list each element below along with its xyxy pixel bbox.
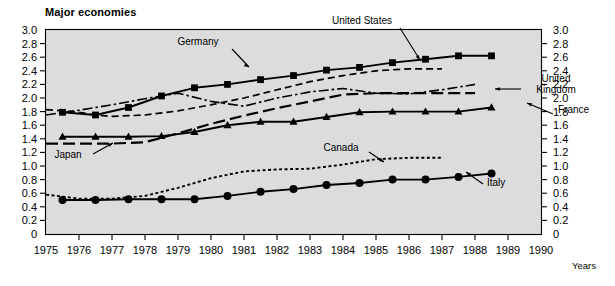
x-tick-label: 1984 <box>331 244 355 256</box>
y-tick-label-left: 2.8 <box>22 38 37 50</box>
y-tick-label-left: 1.8 <box>22 106 37 118</box>
y-tick-label-right: 1.0 <box>553 160 568 172</box>
marker-circle <box>455 173 463 181</box>
annotation-united-kingdom-line2: Kingdom <box>536 84 575 95</box>
y-tick-label-left: 0.2 <box>22 214 37 226</box>
marker-square <box>488 52 495 59</box>
y-tick-label-left: 0 <box>31 228 37 240</box>
marker-circle <box>59 196 67 204</box>
marker-square <box>224 81 231 88</box>
y-tick-label-left: 2.4 <box>22 65 37 77</box>
y-tick-label-left: 0.4 <box>22 201 37 213</box>
annotation-japan: Japan <box>54 149 81 160</box>
marker-circle <box>323 181 331 189</box>
x-tick-label: 1982 <box>265 244 289 256</box>
annotation-france: France <box>558 104 590 115</box>
y-tick-label-right: 0 <box>553 228 559 240</box>
marker-circle <box>158 195 166 203</box>
marker-square <box>290 72 297 79</box>
y-axis-right-labels: 3.02.82.62.42.22.01.81.61.41.21.00.80.60… <box>553 24 568 240</box>
marker-circle <box>191 195 199 203</box>
marker-circle <box>92 196 100 204</box>
y-tick-label-left: 3.0 <box>22 24 37 36</box>
marker-square <box>191 84 198 91</box>
x-tick-label: 1990 <box>529 244 553 256</box>
y-tick-label-right: 2.6 <box>553 51 568 63</box>
marker-circle <box>224 192 232 200</box>
x-tick-label: 1986 <box>397 244 421 256</box>
x-tick-label: 1985 <box>364 244 388 256</box>
marker-square <box>356 64 363 71</box>
y-tick-label-left: 1.6 <box>22 119 37 131</box>
annotation-italy: Italy <box>487 177 505 188</box>
y-tick-label-left: 1.2 <box>22 146 37 158</box>
x-tick-label: 1980 <box>199 244 223 256</box>
y-tick-label-left: 2.6 <box>22 51 37 63</box>
annotation-united-kingdom-line1: United <box>542 73 571 84</box>
marker-circle <box>356 179 364 187</box>
y-tick-label-left: 0.6 <box>22 187 37 199</box>
marker-square <box>422 56 429 63</box>
y-tick-label-left: 0.8 <box>22 174 37 186</box>
x-tick-label: 1979 <box>166 244 190 256</box>
marker-square <box>323 67 330 74</box>
marker-square <box>125 104 132 111</box>
x-tick-label: 1976 <box>67 244 91 256</box>
marker-circle <box>422 176 430 184</box>
y-tick-label-left: 2.2 <box>22 78 37 90</box>
y-tick-label-right: 0.8 <box>553 174 568 186</box>
major-economies-chart: 3.02.82.62.42.22.01.81.61.41.21.00.80.60… <box>0 0 615 286</box>
x-tick-label: 1981 <box>232 244 256 256</box>
marker-circle <box>125 195 133 203</box>
x-tick-label: 1978 <box>133 244 157 256</box>
marker-circle <box>257 188 265 196</box>
y-tick-label-right: 0.6 <box>553 187 568 199</box>
y-tick-label-left: 1.4 <box>22 133 37 145</box>
y-tick-label-left: 1.0 <box>22 160 37 172</box>
x-axis-labels: 1975197619771978197919801981198219831984… <box>34 244 553 256</box>
x-tick-label: 1989 <box>496 244 520 256</box>
y-tick-label-left: 2.0 <box>22 92 37 104</box>
y-tick-label-right: 0.2 <box>553 214 568 226</box>
plot-area <box>46 30 542 235</box>
chart-page: Major economies 3.02.82.62.42.22.01.81.6… <box>0 0 615 286</box>
annotation-united-states: United States <box>332 15 392 26</box>
annotation-germany: Germany <box>177 36 218 47</box>
y-tick-label-right: 3.0 <box>553 24 568 36</box>
y-tick-label-right: 1.4 <box>553 133 568 145</box>
y-tick-label-right: 1.6 <box>553 119 568 131</box>
x-tick-label: 1987 <box>430 244 454 256</box>
marker-square <box>389 59 396 66</box>
marker-circle <box>389 176 397 184</box>
y-axis-left-labels: 3.02.82.62.42.22.01.81.61.41.21.00.80.60… <box>22 24 37 240</box>
y-tick-label-right: 1.2 <box>553 146 568 158</box>
x-tick-label: 1983 <box>298 244 322 256</box>
x-tick-label: 1988 <box>463 244 487 256</box>
y-tick-label-right: 2.8 <box>553 38 568 50</box>
x-tick-label: 1975 <box>34 244 58 256</box>
x-tick-label: 1977 <box>100 244 124 256</box>
marker-circle <box>290 185 298 193</box>
y-tick-label-right: 0.4 <box>553 201 568 213</box>
marker-square <box>257 76 264 83</box>
annotation-canada: Canada <box>323 142 358 153</box>
x-axis-caption: Years <box>572 260 596 271</box>
marker-square <box>455 52 462 59</box>
